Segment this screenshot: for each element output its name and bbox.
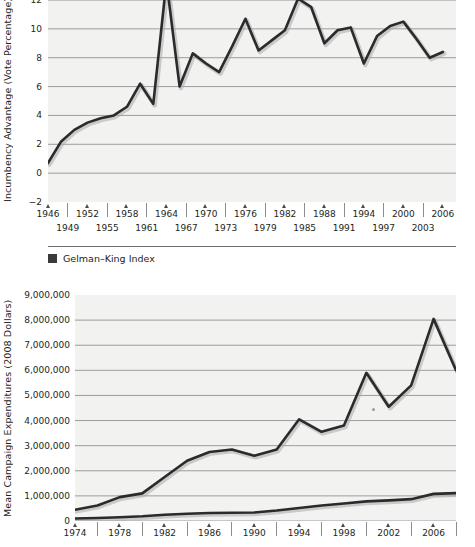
chart1-y-tick: 10 bbox=[0, 24, 42, 34]
chart1-y-tick: 2 bbox=[0, 139, 42, 149]
chart1-x-tick-label: 2000 bbox=[383, 209, 423, 219]
legend-swatch-icon bbox=[48, 254, 57, 263]
chart2-x-tick-arrow bbox=[252, 523, 256, 527]
chart2-line-svg bbox=[75, 295, 456, 521]
chart2-x-tick-label: 2002 bbox=[369, 528, 409, 538]
legend-label: Gelman–King Index bbox=[63, 253, 155, 264]
chart2-x-tick-bar bbox=[456, 522, 457, 536]
chart2-x-tick-label: 1978 bbox=[100, 528, 140, 538]
chart1-x-tick-label: 1952 bbox=[67, 209, 107, 219]
chart2-y-tick: 9,000,000 bbox=[12, 290, 70, 300]
chart2-y-axis-label: Mean Campaign Expenditures (2008 Dollars… bbox=[2, 295, 13, 521]
chart1-x-tick-label: 1988 bbox=[304, 209, 344, 219]
chart1-legend: Gelman–King Index bbox=[48, 253, 155, 264]
chart2-x-tick-label: 1990 bbox=[234, 528, 274, 538]
chart2-x-tick-arrow bbox=[386, 523, 390, 527]
chart1-x-tick-label: 1997 bbox=[364, 223, 404, 233]
chart1-y-tick: 0 bbox=[0, 168, 42, 178]
chart2-x-tick-bar bbox=[187, 522, 188, 536]
chart1-x-tick-arrow bbox=[203, 204, 207, 208]
chart2-x-tick-label: 1994 bbox=[279, 528, 319, 538]
chart2-x-tick-bar bbox=[97, 522, 98, 536]
chart2-x-tick-arrow bbox=[162, 523, 166, 527]
chart2-plot-area bbox=[75, 295, 456, 521]
chart1-x-tick-label: 1967 bbox=[166, 223, 206, 233]
chart2-y-tick: 1,000,000 bbox=[12, 491, 70, 501]
chart2-x-tick-bar bbox=[321, 522, 322, 536]
chart1-y-tick: 12 bbox=[0, 0, 42, 5]
chart2-x-tick-label: 1974 bbox=[55, 528, 95, 538]
chart2-x-tick-arrow bbox=[73, 523, 77, 527]
chart2-x-tick-bar bbox=[276, 522, 277, 536]
chart1-y-tick: −2 bbox=[0, 197, 42, 207]
chart1-x-tick-label: 1970 bbox=[186, 209, 226, 219]
chart1-x-tick-arrow bbox=[164, 204, 168, 208]
chart2-x-tick-label: 1986 bbox=[189, 528, 229, 538]
chart2-x-tick-arrow bbox=[207, 523, 211, 527]
chart2-x-tick-bar bbox=[366, 522, 367, 536]
chart2-x-tick-arrow bbox=[431, 523, 435, 527]
chart1-x-tick-arrow bbox=[85, 204, 89, 208]
chart2-x-tick-arrow bbox=[297, 523, 301, 527]
chart2-x-tick-label: 1982 bbox=[145, 528, 185, 538]
campaign-expenditures-chart: Mean Campaign Expenditures (2008 Dollars… bbox=[0, 290, 475, 547]
chart2-x-tick-bar bbox=[231, 522, 232, 536]
chart1-x-tick-arrow bbox=[243, 204, 247, 208]
chart1-x-tick-label: 1991 bbox=[324, 223, 364, 233]
chart1-x-tick-arrow bbox=[124, 204, 128, 208]
incumbency-advantage-chart: Incumbency Advantage (Vote Percentage) 1… bbox=[0, 0, 475, 278]
chart1-y-tick: 8 bbox=[0, 53, 42, 63]
chart1-x-tick-arrow bbox=[322, 204, 326, 208]
chart1-x-tick-arrow bbox=[401, 204, 405, 208]
chart2-y-tick: 2,000,000 bbox=[12, 466, 70, 476]
chart2-y-tick: 7,000,000 bbox=[12, 340, 70, 350]
chart1-x-tick-label: 1994 bbox=[344, 209, 384, 219]
chart2-y-tick: 3,000,000 bbox=[12, 441, 70, 451]
chart2-y-tick: 8,000,000 bbox=[12, 315, 70, 325]
legend-divider bbox=[48, 246, 456, 247]
chart1-x-tick-label: 2003 bbox=[403, 223, 443, 233]
chart2-x-tick-bar bbox=[142, 522, 143, 536]
chart1-x-tick-arrow bbox=[440, 204, 444, 208]
chart1-x-tick-arrow bbox=[282, 204, 286, 208]
chart1-x-tick-label: 1955 bbox=[87, 223, 127, 233]
chart2-x-tick-bar bbox=[411, 522, 412, 536]
chart1-y-tick: 6 bbox=[0, 82, 42, 92]
chart1-x-tick-label: 1976 bbox=[225, 209, 265, 219]
chart2-x-tick-label: 1998 bbox=[324, 528, 364, 538]
scan-speck-artifact bbox=[372, 408, 375, 411]
chart1-plot-area bbox=[48, 0, 456, 202]
chart1-x-tick-label: 1979 bbox=[245, 223, 285, 233]
chart1-y-tick: 4 bbox=[0, 110, 42, 120]
chart2-x-tick-label: 2006 bbox=[414, 528, 454, 538]
chart1-x-tick-label: 1961 bbox=[127, 223, 167, 233]
chart1-x-tick-arrow bbox=[46, 204, 50, 208]
chart1-x-tick-label: 2006 bbox=[423, 209, 463, 219]
chart2-y-tick: 0 bbox=[12, 516, 70, 526]
chart2-x-tick-arrow bbox=[341, 523, 345, 527]
chart2-x-tick-arrow bbox=[117, 523, 121, 527]
chart1-line-svg bbox=[48, 0, 456, 202]
chart1-x-tick-label: 1982 bbox=[265, 209, 305, 219]
chart1-x-tick-label: 1949 bbox=[48, 223, 88, 233]
chart2-y-tick: 5,000,000 bbox=[12, 390, 70, 400]
chart1-x-tick-label: 1964 bbox=[146, 209, 186, 219]
chart2-y-tick: 4,000,000 bbox=[12, 416, 70, 426]
chart1-x-tick-label: 1946 bbox=[28, 209, 68, 219]
chart1-x-tick-label: 1973 bbox=[206, 223, 246, 233]
chart2-y-tick: 6,000,000 bbox=[12, 365, 70, 375]
chart1-x-tick-label: 1958 bbox=[107, 209, 147, 219]
chart1-x-tick-arrow bbox=[361, 204, 365, 208]
chart1-x-tick-label: 1985 bbox=[285, 223, 325, 233]
